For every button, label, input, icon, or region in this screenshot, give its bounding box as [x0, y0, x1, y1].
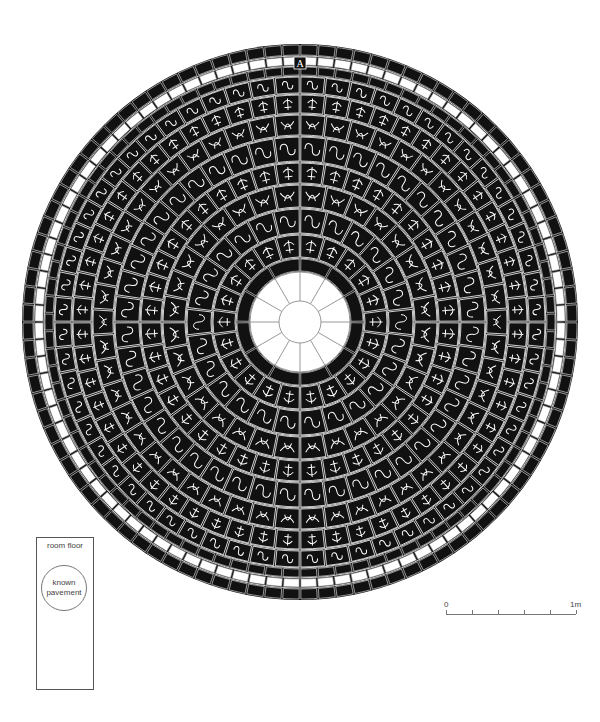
scale-end-label: 1m: [570, 600, 581, 609]
legend-circle-label-1: known: [52, 578, 75, 588]
legend-circle-label-2: pavement: [46, 588, 81, 598]
scale-tick: [446, 610, 447, 614]
legend-known-pavement-circle: known pavement: [41, 565, 87, 611]
scale-tick: [498, 610, 499, 614]
scale-tick: [472, 610, 473, 614]
scale-line: [446, 614, 576, 615]
legend-room-floor: room floor known pavement: [36, 537, 94, 690]
scale-tick: [576, 610, 577, 614]
scale-start-label: 0: [444, 600, 448, 609]
scale-tick: [524, 610, 525, 614]
legend-title: room floor: [37, 541, 93, 550]
scale-bar: 0 1m: [446, 600, 578, 620]
top-marker-label: A: [296, 58, 304, 69]
scale-tick: [550, 610, 551, 614]
